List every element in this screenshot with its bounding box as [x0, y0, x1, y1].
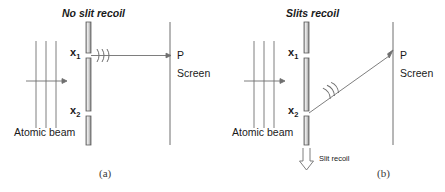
- atomic-beam-label-a: Atomic beam: [14, 127, 75, 138]
- screen-label-b: Screen: [400, 68, 433, 79]
- panel-a-graphics: [0, 0, 222, 192]
- slit-label-x1-b: x1: [288, 47, 298, 61]
- slit-label-x2-a: x2: [70, 105, 80, 119]
- ray-to-point-p-a: [91, 53, 171, 58]
- panel-a: No slit recoil x1 x2 P Screen Atomic bea…: [0, 0, 222, 192]
- beam-direction-arrow-a: [26, 79, 67, 84]
- atomic-beam-wavefronts-a: [36, 41, 56, 128]
- panel-b-title: Slits recoil: [286, 8, 339, 19]
- barrier-segment-middle-a: [86, 58, 91, 111]
- slit-label-x2-a-sub: 2: [76, 110, 80, 119]
- point-label-p-a: P: [177, 50, 184, 61]
- panel-a-title: No slit recoil: [62, 8, 125, 19]
- point-label-p-b: P: [400, 50, 407, 61]
- atomic-beam-wavefronts-b: [254, 41, 274, 128]
- caption-b: (b): [377, 168, 390, 179]
- slit-recoil-arrow-b: [300, 148, 314, 170]
- barrier-segment-bottom-a: [86, 116, 91, 145]
- slit-label-x1-a-sub: 1: [76, 52, 80, 61]
- slit-label-x2-b: x2: [288, 105, 298, 119]
- atomic-beam-label-b: Atomic beam: [232, 127, 293, 138]
- panel-b: Slits recoil x1 x2 P Screen Atomic beam …: [223, 0, 445, 192]
- caption-a: (a): [99, 168, 111, 179]
- diffracted-wave-arcs-b: [323, 81, 340, 99]
- barrier-segment-bottom-b: [304, 116, 309, 145]
- beam-direction-arrow-b: [244, 79, 285, 84]
- barrier-segment-top-b: [304, 22, 309, 53]
- barrier-segment-middle-b: [304, 58, 309, 111]
- barrier-with-slits-a: [86, 22, 91, 145]
- ray-to-point-p-b: [309, 50, 393, 113]
- slit-label-x1-a: x1: [70, 47, 80, 61]
- slit-label-x2-b-sub: 2: [294, 110, 298, 119]
- barrier-segment-top-a: [86, 22, 91, 53]
- slit-label-x1-b-sub: 1: [294, 52, 298, 61]
- screen-label-a: Screen: [177, 68, 210, 79]
- slit-recoil-label-b: Slit recoil: [319, 155, 349, 163]
- panel-b-graphics: [223, 0, 445, 192]
- figure-double-slit-recoil: No slit recoil x1 x2 P Screen Atomic bea…: [0, 0, 445, 192]
- barrier-with-slits-b: [304, 22, 309, 145]
